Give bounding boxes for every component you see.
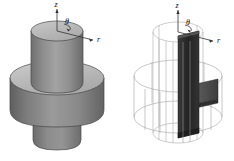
section-flange-wing	[196, 79, 218, 108]
section-slab-front-face	[178, 31, 199, 138]
cylindrical-coordinates-figure: z r θ	[0, 0, 234, 161]
theta-axis-label: θ	[186, 18, 190, 27]
upper-cylinder	[31, 21, 83, 93]
theta-axis-label: θ	[65, 17, 69, 26]
section-main-slab	[178, 31, 199, 138]
